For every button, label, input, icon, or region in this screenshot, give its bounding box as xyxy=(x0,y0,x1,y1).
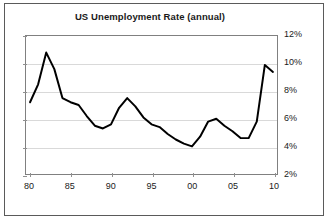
x-axis-tick-label: 90 xyxy=(96,181,126,191)
data-series-layer xyxy=(26,36,277,174)
unemployment-rate-line xyxy=(30,53,273,147)
x-axis-tick-label: 95 xyxy=(137,181,167,191)
y-axis-tick-label: 8% xyxy=(284,85,324,95)
y-axis-tick-label: 10% xyxy=(284,57,324,67)
x-axis-tick-label: 10 xyxy=(259,181,289,191)
y-axis-tick-label: 12% xyxy=(284,29,324,39)
x-axis-tick-label: 05 xyxy=(218,181,248,191)
x-axis-tick-label: 85 xyxy=(55,181,85,191)
chart-title: US Unemployment Rate (annual) xyxy=(20,11,280,22)
y-axis-tick-label: 4% xyxy=(284,141,324,151)
plot-area xyxy=(25,35,278,175)
y-axis-tick-label: 6% xyxy=(284,113,324,123)
y-axis-tick-label: 2% xyxy=(284,169,324,179)
x-axis-tick-label: 00 xyxy=(177,181,207,191)
x-axis-tick-label: 80 xyxy=(14,181,44,191)
chart-figure: US Unemployment Rate (annual) 12%10%8%6%… xyxy=(0,0,329,221)
y-tick-mark xyxy=(23,176,27,177)
